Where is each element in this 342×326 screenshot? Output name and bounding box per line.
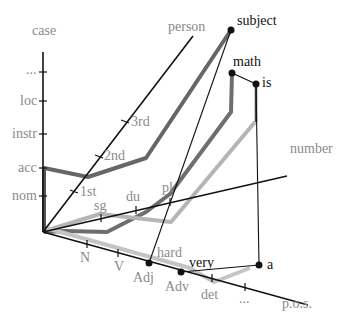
- case-axis-label: case: [32, 24, 56, 38]
- word-label-subject: subject: [237, 14, 277, 28]
- word-label-very: very: [189, 256, 214, 270]
- a-node: [256, 262, 263, 269]
- person-tick-1st: 1st: [80, 185, 96, 199]
- math-feature-path: [44, 73, 232, 232]
- case-tick-loc: loc: [20, 94, 37, 108]
- is-to-a-line: [256, 84, 259, 265]
- case-tick-nom: nom: [12, 189, 37, 203]
- pos-tick-n: N: [80, 251, 90, 265]
- pos-tick-v: V: [114, 260, 124, 274]
- pos-tick-adj: Adj: [133, 271, 154, 285]
- diagram-lines: [0, 0, 342, 326]
- pos-tick-det: det: [201, 288, 218, 302]
- person-axis-label: person: [168, 20, 205, 34]
- pos-tick-adv: Adv: [165, 280, 189, 294]
- adv-node: [178, 269, 185, 276]
- case-tick-acc: acc: [18, 161, 37, 175]
- case-tick-instr: instr: [12, 127, 37, 141]
- case-tick-more: ...: [26, 63, 37, 77]
- math-is-link: [232, 73, 256, 84]
- subject-node: [228, 27, 235, 34]
- adj-node: [146, 260, 153, 267]
- is-node: [253, 81, 260, 88]
- word-label-hard: hard: [157, 246, 182, 260]
- word-label-math: math: [233, 55, 261, 69]
- pos-axis-label: p.o.s.: [282, 297, 312, 311]
- number-tick-du: du: [126, 190, 140, 204]
- person-tick-3rd: 3rd: [131, 115, 150, 129]
- number-tick-pl: pl: [162, 181, 173, 195]
- word-label-a: a: [267, 258, 273, 272]
- person-tick-2nd: 2nd: [104, 149, 125, 163]
- number-tick-sg: sg: [94, 199, 106, 213]
- number-axis-label: number: [290, 142, 333, 156]
- feature-space-diagram: case person number p.o.s. nom acc instr …: [0, 0, 342, 326]
- subject-to-adj-line: [149, 30, 231, 263]
- word-label-is: is: [262, 76, 271, 90]
- pos-tick-more: ...: [239, 292, 250, 306]
- math-node: [229, 70, 236, 77]
